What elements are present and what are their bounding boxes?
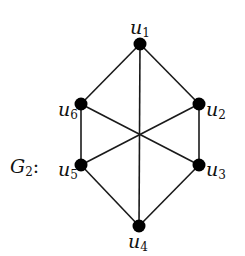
node-label-u1: u1 [130, 18, 150, 39]
node-label-u2: u2 [206, 100, 226, 121]
edge-u1-u2 [140, 44, 199, 104]
node-u3 [193, 159, 206, 172]
node-label-u5: u5 [58, 160, 78, 181]
edge-u1-u6 [81, 44, 140, 104]
edge-u5-u4 [81, 165, 139, 226]
graph-edges [81, 44, 199, 226]
node-label-u4: u4 [128, 232, 148, 253]
node-label-u6: u6 [58, 100, 78, 121]
graph-title: G2: [10, 157, 39, 178]
graph-canvas [0, 0, 245, 256]
node-label-u3: u3 [206, 160, 226, 181]
edge-u3-u4 [139, 165, 199, 226]
node-u2 [193, 98, 206, 111]
